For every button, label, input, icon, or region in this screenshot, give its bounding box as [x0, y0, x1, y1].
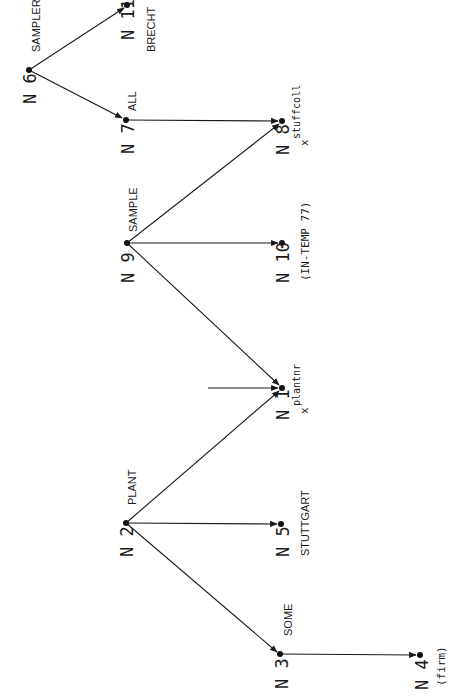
label-n1: N 1: [273, 389, 293, 420]
nodes: [26, 2, 423, 658]
word-plant: PLANT: [126, 469, 138, 505]
word-sample: SAMPLE: [127, 187, 139, 232]
edge-n2-n1: [126, 391, 279, 523]
label-n8: N 8: [273, 124, 293, 155]
word-some: SOME: [282, 604, 294, 636]
edge-n2-n3: [126, 523, 277, 652]
label-n9: N 9: [118, 252, 138, 283]
node-n6[interactable]: [26, 67, 32, 73]
node-n3[interactable]: [277, 651, 283, 657]
word-sampler: SAMPLER: [30, 0, 42, 52]
word-labels: SAMPLER ALL SAMPLE PLANT SOME: [30, 0, 294, 636]
node-n4[interactable]: [417, 652, 423, 658]
label-n10: N 10: [273, 242, 293, 283]
label-n11: N 11: [118, 0, 138, 40]
label-n2: N 2: [117, 526, 137, 557]
superscript-stuffcoll: stuffcoll: [291, 85, 302, 139]
word-all: ALL: [126, 91, 138, 111]
node-n8[interactable]: [279, 118, 285, 124]
semantic-network-diagram: N 6 N 11 N 7 N 8 N 9 N 10 N 1 N 2 N 5 N …: [0, 0, 465, 700]
label-n3: N 3: [272, 658, 292, 689]
node-n2[interactable]: [123, 520, 129, 526]
edge-n9-n1: [127, 243, 279, 385]
annotation-stuttgart: STUTTGART: [299, 490, 311, 556]
variable-x-plantnr: x: [298, 407, 311, 414]
edge-n6-n11: [29, 8, 124, 70]
label-n5: N 5: [273, 526, 293, 557]
edge-n2-n5: [126, 523, 277, 524]
edge-n3-n4: [280, 654, 416, 655]
label-n4: N 4: [412, 659, 432, 690]
edge-n6-n7: [29, 70, 122, 118]
edge-n7-n8: [126, 120, 278, 121]
annotation-brecht: BRECHT: [145, 6, 157, 52]
annotation-in-temp-77: (IN-TEMP 77): [299, 202, 312, 281]
label-n6: N 6: [20, 73, 40, 104]
node-n5[interactable]: [278, 521, 284, 527]
annotations: BRECHT (IN-TEMP 77) STUTTGART (firm) x s…: [145, 6, 448, 686]
node-n9[interactable]: [124, 240, 130, 246]
node-labels: N 6 N 11 N 7 N 8 N 9 N 10 N 1 N 2 N 5 N …: [20, 0, 432, 690]
variable-x-stuffcoll: x: [298, 139, 311, 146]
edges: [29, 8, 416, 655]
label-n7: N 7: [118, 123, 138, 154]
node-n7[interactable]: [123, 117, 129, 123]
edge-n9-n8: [127, 124, 279, 243]
annotation-firm: (firm): [435, 646, 448, 686]
superscript-plantnr: plantnr: [291, 364, 302, 406]
